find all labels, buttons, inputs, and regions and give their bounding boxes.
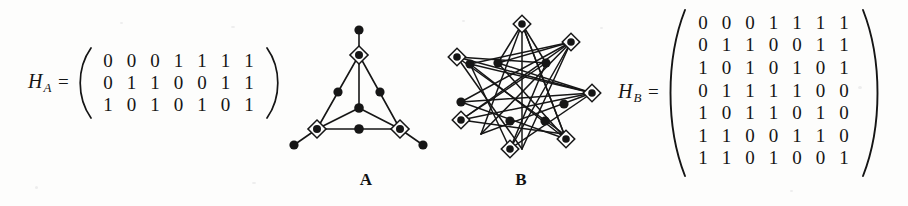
graph-a-drawing xyxy=(276,8,446,168)
matrix-cell: 0 xyxy=(769,35,779,54)
matrix-cell: 1 xyxy=(745,81,755,100)
matrix-cell: 1 xyxy=(174,51,184,70)
matrix-cell: 1 xyxy=(792,58,802,77)
matrix-cell: 1 xyxy=(769,13,779,32)
matrix-cell: 1 xyxy=(698,126,708,145)
matrix-cell: 1 xyxy=(839,13,849,32)
left-paren-icon xyxy=(78,47,93,119)
matrix-cell: 0 xyxy=(174,95,184,114)
matrix-h-a-equals: = xyxy=(52,71,76,92)
scan-speckle xyxy=(252,182,256,184)
matrix-cell: 1 xyxy=(698,58,708,77)
matrix-cell: 1 xyxy=(103,95,113,114)
scan-speckle xyxy=(231,26,235,28)
matrix-cell: 1 xyxy=(769,103,779,122)
matrix-cell: 1 xyxy=(745,35,755,54)
matrix-cell: 0 xyxy=(839,103,849,122)
matrix-cell: 1 xyxy=(150,95,160,114)
matrix-cell: 0 xyxy=(722,13,732,32)
graph-b-caption: B xyxy=(501,170,541,190)
matrix-cell: 0 xyxy=(816,81,826,100)
matrix-h-b-label: HB= xyxy=(618,80,668,106)
matrix-h-b-body: 0001111011001110101010111100101101011001… xyxy=(668,8,880,178)
matrix-cell: 1 xyxy=(839,58,849,77)
matrix-cell: 1 xyxy=(745,58,755,77)
matrix-cell: 1 xyxy=(722,35,732,54)
matrix-h-a: HA= 000111101100111010101 xyxy=(28,47,280,119)
matrix-cell: 0 xyxy=(816,148,826,167)
matrix-cell: 0 xyxy=(792,103,802,122)
matrix-h-b-grid: 0001111011001110101010111100101101011001… xyxy=(688,8,860,178)
matrix-cell: 0 xyxy=(769,126,779,145)
matrix-cell: 0 xyxy=(792,35,802,54)
matrix-cell: 1 xyxy=(816,13,826,32)
matrix-cell: 1 xyxy=(769,81,779,100)
right-paren-icon xyxy=(860,8,880,178)
matrix-cell: 1 xyxy=(769,148,779,167)
matrix-cell: 0 xyxy=(745,148,755,167)
matrix-cell: 0 xyxy=(839,81,849,100)
matrix-cell: 1 xyxy=(839,148,849,167)
matrix-cell: 1 xyxy=(722,148,732,167)
matrix-cell: 1 xyxy=(816,126,826,145)
matrix-cell: 1 xyxy=(792,81,802,100)
matrix-cell: 1 xyxy=(197,51,207,70)
matrix-cell: 1 xyxy=(722,126,732,145)
matrix-cell: 0 xyxy=(816,58,826,77)
matrix-cell: 0 xyxy=(197,73,207,92)
matrix-cell: 0 xyxy=(127,95,137,114)
graph-a-caption: A xyxy=(346,170,386,190)
matrix-cell: 1 xyxy=(816,35,826,54)
graph-b-diamond-nodes xyxy=(448,15,601,158)
matrix-cell: 1 xyxy=(698,103,708,122)
matrix-h-b: HB= 000111101100111010101011110010110101… xyxy=(618,8,880,178)
matrix-cell: 1 xyxy=(221,73,231,92)
scan-speckle xyxy=(790,190,793,192)
matrix-cell: 1 xyxy=(722,81,732,100)
matrix-cell: 0 xyxy=(103,73,113,92)
matrix-cell: 1 xyxy=(792,126,802,145)
matrix-cell: 0 xyxy=(103,51,113,70)
matrix-cell: 0 xyxy=(698,35,708,54)
matrix-cell: 0 xyxy=(150,51,160,70)
matrix-cell: 0 xyxy=(839,126,849,145)
scan-speckle xyxy=(35,186,38,189)
matrix-cell: 1 xyxy=(197,95,207,114)
matrix-cell: 0 xyxy=(745,126,755,145)
matrix-cell: 0 xyxy=(174,73,184,92)
graph-b-drawing xyxy=(440,8,605,168)
left-paren-icon xyxy=(668,8,688,178)
matrix-cell: 1 xyxy=(244,95,254,114)
matrix-cell: 0 xyxy=(769,58,779,77)
matrix-h-b-equals: = xyxy=(642,81,666,102)
matrix-h-a-body: 000111101100111010101 xyxy=(78,47,280,119)
matrix-cell: 0 xyxy=(698,13,708,32)
matrix-cell: 0 xyxy=(722,103,732,122)
matrix-cell: 1 xyxy=(150,73,160,92)
matrix-cell: 0 xyxy=(698,81,708,100)
matrix-cell: 1 xyxy=(839,35,849,54)
matrix-cell: 0 xyxy=(722,58,732,77)
matrix-h-b-subscript: B xyxy=(633,90,642,105)
matrix-cell: 1 xyxy=(244,73,254,92)
matrix-cell: 0 xyxy=(221,95,231,114)
matrix-cell: 0 xyxy=(127,51,137,70)
matrix-cell: 0 xyxy=(792,148,802,167)
matrix-h-a-grid: 000111101100111010101 xyxy=(93,47,265,119)
matrix-cell: 1 xyxy=(816,103,826,122)
matrix-cell: 1 xyxy=(792,13,802,32)
matrix-h-a-label: HA= xyxy=(28,70,78,96)
matrix-h-a-name: H xyxy=(28,70,43,92)
matrix-h-a-subscript: A xyxy=(43,80,52,95)
matrix-cell: 1 xyxy=(745,103,755,122)
figure-incidence-matrices-and-hypergraphs: HA= 000111101100111010101 xyxy=(0,0,908,206)
matrix-cell: 0 xyxy=(745,13,755,32)
matrix-cell: 1 xyxy=(244,51,254,70)
matrix-cell: 1 xyxy=(698,148,708,167)
matrix-cell: 1 xyxy=(127,73,137,92)
scan-speckle xyxy=(120,22,123,24)
matrix-cell: 1 xyxy=(221,51,231,70)
matrix-h-b-name: H xyxy=(618,80,633,102)
